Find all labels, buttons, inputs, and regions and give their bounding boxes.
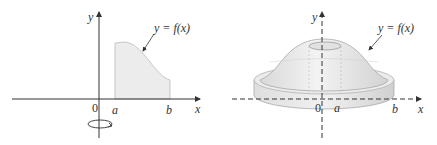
origin-label: 0 <box>92 101 98 115</box>
shaded-region <box>115 42 170 99</box>
a-label: a <box>334 101 340 115</box>
origin-label: 0 <box>315 101 321 115</box>
curve-pointer <box>143 34 154 51</box>
y-axis-label: y <box>87 10 94 24</box>
solid-hole <box>309 42 341 50</box>
y-axis-label: y <box>311 10 318 24</box>
x-axis-label: x <box>417 102 424 116</box>
b-label: b <box>392 102 398 116</box>
b-label: b <box>166 103 172 117</box>
x-axis-label: x <box>194 102 201 116</box>
right-panel: y x 0 a b y = f(x) <box>232 10 424 138</box>
a-label: a <box>112 103 118 117</box>
curve-pointer <box>369 35 382 50</box>
left-panel: y x 0 a b y = f(x) <box>12 10 201 138</box>
figure-canvas: y x 0 a b y = f(x) y x 0 a b y = f(x) <box>0 0 437 145</box>
curve-label: y = f(x) <box>153 21 190 35</box>
curve-label: y = f(x) <box>377 21 414 35</box>
rotation-arrow-icon <box>88 120 112 128</box>
